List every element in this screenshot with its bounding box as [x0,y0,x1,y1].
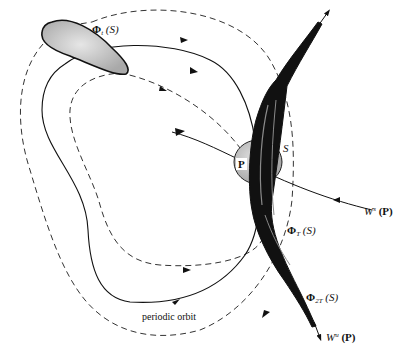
label-phi-2T: Φ2T (S) [306,292,338,305]
diagram-canvas: Φt (S) S P ΦT (S) Ws (P) Φ2T (S) Wu (P) … [0,0,400,348]
diagram-svg [0,0,400,348]
arrow-icon [183,267,191,273]
unstable-out-arrow-down [314,322,320,338]
arrow-icon [262,310,270,318]
arrow-icon [180,37,188,43]
label-point-P: P [238,159,245,170]
arrow-icon [333,197,340,203]
label-unstable-manifold: Wu (P) [326,332,355,343]
label-section-S: S [283,143,289,154]
label-stable-manifold: Ws (P) [364,206,393,217]
unstable-out-arrow-up [318,12,328,26]
label-periodic-orbit: periodic orbit [142,312,196,322]
arrow-icon [190,67,198,74]
label-phi-t: Φt (S) [92,24,119,37]
label-phi-T: ΦT (S) [287,225,316,238]
